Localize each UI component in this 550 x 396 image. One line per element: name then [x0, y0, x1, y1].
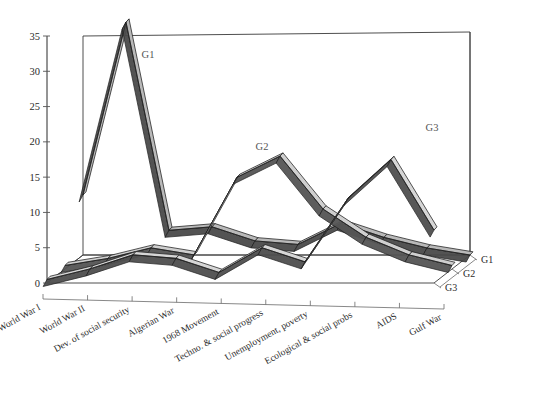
three-d-line-chart: 05101520253035World War IWorld War IIDev… [0, 0, 550, 396]
series-annotation-g3: G3 [426, 122, 439, 133]
depth-axis-label: G1 [481, 254, 493, 265]
y-axis-tick-label: 30 [30, 66, 41, 77]
y-axis-tick-label: 25 [30, 101, 41, 112]
x-axis-line [43, 299, 444, 309]
series-annotation-g1: G1 [142, 49, 155, 60]
series-annotation-g2: G2 [256, 141, 269, 152]
y-axis-tick-label: 35 [30, 31, 41, 42]
depth-axis-label: G2 [463, 268, 475, 279]
depth-axis-label: G3 [445, 282, 457, 293]
depth-axis-tick [434, 283, 441, 288]
chart-container: 05101520253035World War IWorld War IIDev… [0, 0, 550, 396]
x-axis-category-label: Unemployment, poverty [223, 309, 309, 363]
x-axis-category-label: Dev. of social security [52, 304, 131, 354]
x-axis-category-label: Ecological & social probs [263, 310, 354, 367]
x-axis-category-label: Techno. & social progress [173, 307, 265, 364]
x-axis-category-label: Gulf War [407, 312, 443, 338]
y-axis-tick-label: 15 [30, 172, 41, 183]
y-axis-tick-label: 5 [35, 242, 40, 253]
y-axis-tick-label: 0 [35, 278, 40, 289]
x-axis-category-label: World War I [0, 302, 42, 333]
y-axis-tick-label: 20 [30, 136, 41, 147]
back-wall [83, 32, 470, 255]
y-axis-tick-label: 10 [30, 207, 41, 218]
x-axis-category-label: AIDS [374, 311, 398, 330]
left-wall-edge [47, 36, 83, 283]
